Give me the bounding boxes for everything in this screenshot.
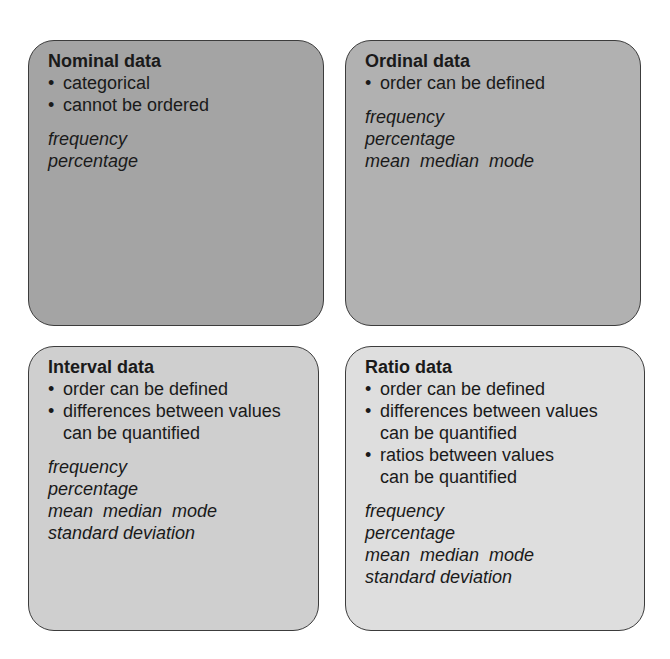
statistic-item: frequency: [365, 500, 644, 522]
statistic-item: standard deviation: [48, 522, 318, 544]
statistic-item: frequency: [48, 128, 323, 150]
property-list: order can be defined differences between…: [48, 378, 298, 444]
statistic-item: frequency: [365, 106, 640, 128]
property-list: order can be defined differences between…: [365, 378, 615, 488]
statistics-list: frequency percentage: [48, 128, 323, 172]
nominal-data-box: Nominal data categorical cannot be order…: [28, 40, 324, 326]
interval-data-box: Interval data order can be defined diffe…: [28, 346, 319, 631]
statistics-list: frequency percentage mean median mode st…: [48, 456, 318, 544]
property-item: categorical: [48, 72, 323, 94]
box-title: Ordinal data: [365, 50, 640, 72]
property-item: differences between values can be quanti…: [365, 400, 615, 444]
statistic-item: mean median mode: [48, 500, 318, 522]
ordinal-data-box: Ordinal data order can be defined freque…: [345, 40, 641, 326]
statistic-item: percentage: [48, 478, 318, 500]
property-item: order can be defined: [48, 378, 298, 400]
property-item: differences between values can be quanti…: [48, 400, 298, 444]
statistics-list: frequency percentage mean median mode: [365, 106, 640, 172]
box-title: Interval data: [48, 356, 318, 378]
statistic-item: percentage: [365, 128, 640, 150]
statistic-item: percentage: [48, 150, 323, 172]
statistic-item: standard deviation: [365, 566, 644, 588]
property-item: cannot be ordered: [48, 94, 323, 116]
property-list: categorical cannot be ordered: [48, 72, 323, 116]
property-item: order can be defined: [365, 72, 640, 94]
property-list: order can be defined: [365, 72, 640, 94]
property-item: ratios between values can be quantified: [365, 444, 575, 488]
property-item: order can be defined: [365, 378, 615, 400]
statistic-item: mean median mode: [365, 544, 644, 566]
statistic-item: mean median mode: [365, 150, 640, 172]
statistic-item: percentage: [365, 522, 644, 544]
ratio-data-box: Ratio data order can be defined differen…: [345, 346, 645, 631]
statistics-list: frequency percentage mean median mode st…: [365, 500, 644, 588]
box-title: Ratio data: [365, 356, 644, 378]
box-title: Nominal data: [48, 50, 323, 72]
statistic-item: frequency: [48, 456, 318, 478]
